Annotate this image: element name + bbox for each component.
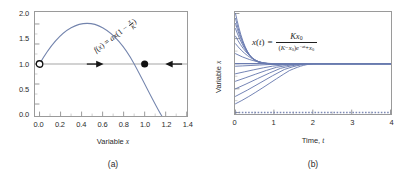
panel-b-ytick-3: 1.5 — [3, 34, 29, 43]
panel-b-ytick-2: 1.0 — [3, 59, 29, 68]
panel-b-xaxis-title: Time, t — [302, 136, 325, 145]
panel-a-xtick-0: 0.0 — [34, 120, 44, 129]
panel-b-ytick-0: 0.0 — [3, 109, 29, 118]
panel-b-caption: (b) — [308, 159, 318, 169]
formula-b-fraction: Kx0 (K−x0)e−at+x0 — [276, 32, 318, 53]
flow-arrow-left — [165, 61, 182, 68]
panel-a-caption: (a) — [108, 159, 118, 169]
unstable-fixed-point-marker — [36, 61, 43, 67]
formula-b-num-sub: 0 — [300, 35, 303, 41]
panel-a-plot-svg — [35, 12, 187, 116]
formula-b-lhs: x(t) — [252, 37, 265, 47]
figure-container: 0.4 0.2 0.0 -0.2 -0.4 0.0 0.2 0.4 0.6 0.… — [0, 0, 407, 181]
formula-b-den-sub2: 0 — [312, 47, 314, 52]
panel-b-xtick-2: 2 — [311, 118, 315, 127]
panel-a-xaxis-title-var: x — [126, 137, 129, 146]
panel-b-solution-curves — [235, 13, 390, 103]
formula-b-close: ) — [262, 37, 265, 47]
panel-b-xtick-3: 3 — [350, 118, 354, 127]
panel-b-plot-area — [234, 11, 392, 115]
panel-b-xtick-1: 1 — [271, 118, 275, 127]
panel-b-yaxis-title-text: Variable — [214, 64, 223, 93]
panel-b-yaxis-title: Variable x — [214, 61, 223, 93]
panel-a-xaxis-title-text: Variable — [97, 137, 126, 146]
formula-b-numerator: Kx0 — [276, 32, 318, 43]
panel-a-xtick-3: 0.6 — [98, 120, 108, 129]
panel-b-yaxis-title-var: x — [214, 61, 223, 64]
panel-a-xtick-1: 0.2 — [55, 120, 65, 129]
panel-a-xtick-6: 1.2 — [161, 120, 171, 129]
formula-b-denominator: (K−x0)e−at+x0 — [276, 43, 318, 52]
panel-a-xtick-4: 0.8 — [119, 120, 129, 129]
panel-a-xminorticks — [50, 114, 176, 116]
panel-b-xtick-0: 0 — [232, 118, 236, 127]
panel-a-xtick-2: 0.4 — [76, 120, 86, 129]
formula-b-eq: = — [268, 37, 273, 47]
panel-a: 0.4 0.2 0.0 -0.2 -0.4 0.0 0.2 0.4 0.6 0.… — [0, 0, 203, 181]
panel-b-xaxis-title-var: t — [322, 136, 324, 145]
panel-b-xtick-4: 4 — [389, 118, 393, 127]
panel-b: 2.0 1.5 1.0 0.5 0.0 0 1 2 3 4 Variable x… — [204, 0, 407, 181]
panel-b-xaxis-title-text: Time, — [302, 136, 323, 145]
flow-arrow-right — [87, 61, 104, 68]
panel-b-ytick-1: 0.5 — [3, 85, 29, 94]
stable-fixed-point-marker — [141, 60, 148, 67]
panel-b-ytick-4: 2.0 — [3, 8, 29, 17]
panel-b-formula: x(t) = Kx0 (K−x0)e−at+x0 — [252, 32, 317, 53]
panel-a-xtick-5: 1.0 — [140, 120, 150, 129]
panel-b-plot-svg — [235, 12, 391, 114]
panel-a-plot-area — [34, 11, 188, 117]
panel-a-xtick-7: 1.4 — [183, 120, 193, 129]
panel-a-xaxis-title: Variable x — [97, 137, 129, 146]
